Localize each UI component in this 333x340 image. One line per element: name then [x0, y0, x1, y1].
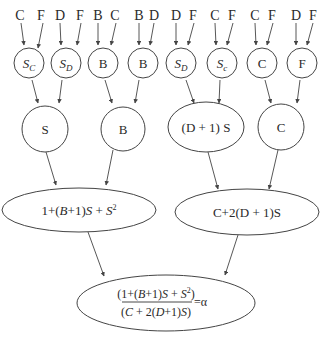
- input-label: F: [228, 8, 236, 23]
- input-arrows: [21, 23, 313, 48]
- arrow: [106, 150, 113, 185]
- level3-arrows: [88, 232, 238, 276]
- svg-text:1+(B+1)S + S2: 1+(B+1)S + S2: [41, 203, 116, 218]
- arrow: [297, 80, 300, 103]
- node-b-1: B: [88, 48, 118, 78]
- input-label: B: [134, 8, 143, 23]
- level2-arrows: [46, 150, 278, 189]
- result-numerator: (1+(B+1)S + S2): [117, 286, 195, 301]
- arrow: [60, 23, 61, 45]
- result-equals: =α: [194, 295, 208, 309]
- result-denominator: (C + 2(D+1)S): [121, 305, 191, 319]
- svg-text:C: C: [277, 120, 286, 135]
- input-label: C: [210, 8, 219, 23]
- node-f: F: [287, 48, 317, 78]
- svg-text:C: C: [258, 56, 267, 71]
- arrow: [46, 152, 56, 185]
- input-label: D: [149, 8, 159, 23]
- arrow: [265, 80, 271, 103]
- arrow: [111, 23, 116, 45]
- arrow: [225, 235, 238, 275]
- svg-text:B: B: [99, 56, 108, 71]
- arrow: [269, 150, 278, 189]
- level1-nodes: SC SD B B SD Sc C F: [14, 48, 317, 78]
- input-label: C: [15, 8, 24, 23]
- input-label: F: [76, 8, 84, 23]
- arrow: [227, 23, 233, 45]
- node-b: B: [101, 107, 145, 151]
- svg-text:F: F: [298, 56, 305, 71]
- flow-diagram: C F D F B C B D D F C F C F D F: [0, 0, 333, 340]
- level3-nodes: 1+(B+1)S + S2 C+2(D + 1)S: [2, 188, 319, 235]
- node-s-c-2: Sc: [207, 48, 237, 78]
- arrow: [32, 80, 38, 103]
- svg-text:B: B: [139, 56, 148, 71]
- node-s-c: SC: [14, 48, 44, 78]
- level2-nodes: S B (D + 1) S C: [22, 102, 304, 152]
- node-c: C: [247, 48, 277, 78]
- arrow: [21, 23, 24, 45]
- arrow: [219, 80, 220, 103]
- input-label: F: [189, 8, 197, 23]
- input-label: F: [37, 8, 45, 23]
- arrow: [150, 23, 154, 45]
- input-label: C: [250, 8, 259, 23]
- node-d-plus-1-s: (D + 1) S: [168, 102, 244, 152]
- input-label: C: [110, 8, 119, 23]
- arrow: [208, 152, 218, 189]
- arrow: [188, 23, 194, 45]
- arrow: [59, 80, 62, 103]
- input-labels: C F D F B C B D D F C F C F D F: [15, 8, 317, 23]
- arrow: [307, 23, 313, 45]
- node-s: S: [22, 106, 68, 152]
- arrow: [186, 80, 194, 103]
- node-c-mid: C: [258, 104, 304, 150]
- node-s-d-2: SD: [166, 48, 196, 78]
- arrow: [77, 23, 81, 45]
- input-label: F: [268, 8, 276, 23]
- arrow: [105, 80, 112, 103]
- node-right-sum: C+2(D + 1)S: [175, 189, 319, 235]
- input-label: D: [55, 8, 65, 23]
- arrow: [255, 23, 256, 45]
- arrow: [267, 23, 273, 45]
- svg-text:S: S: [41, 122, 48, 137]
- input-label: D: [171, 8, 181, 23]
- input-label: F: [309, 8, 317, 23]
- arrow: [215, 23, 216, 45]
- input-label: D: [291, 8, 301, 23]
- result-node: (1+(B+1)S + S2) (C + 2(D+1)S) =α: [77, 275, 255, 331]
- svg-text:B: B: [119, 122, 128, 137]
- arrow: [135, 80, 139, 103]
- svg-text:(D + 1) S: (D + 1) S: [182, 120, 231, 135]
- level1-arrows: [32, 80, 300, 103]
- node-b-2: B: [128, 48, 158, 78]
- arrow: [38, 23, 43, 48]
- svg-text:C+2(D + 1)S: C+2(D + 1)S: [213, 205, 281, 220]
- input-label: B: [93, 8, 102, 23]
- node-s-d: SD: [51, 48, 81, 78]
- arrow: [88, 232, 104, 276]
- node-left-sum: 1+(B+1)S + S2: [2, 188, 156, 232]
